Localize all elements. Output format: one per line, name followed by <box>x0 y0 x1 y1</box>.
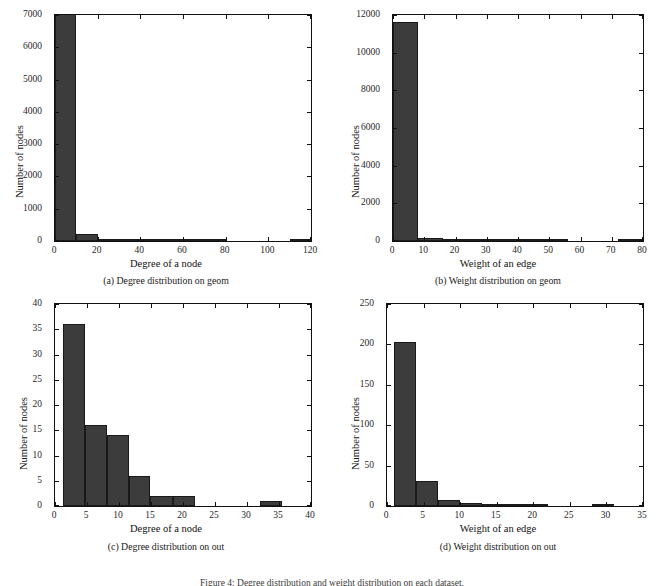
x-tick-mark-top <box>570 304 571 308</box>
x-tick-mark-top <box>606 304 607 308</box>
x-tick-mark <box>497 502 498 506</box>
y-tick-mark <box>55 240 59 241</box>
x-tick-label: 40 <box>135 245 145 255</box>
x-tick-label: 10 <box>419 245 429 255</box>
y-tick-label: 10 <box>33 450 43 460</box>
panel-b-weight-distribution-geom: 01020304050607080 0200040006000800010000… <box>332 0 664 293</box>
y-tick-mark <box>55 505 59 506</box>
y-tick-label: 10000 <box>356 47 380 57</box>
histogram-bar <box>482 504 504 506</box>
y-tick-mark <box>55 80 59 81</box>
y-axis-title-c: Number of nodes <box>18 397 29 470</box>
y-tick-mark-right <box>639 466 643 467</box>
x-tick-mark-top <box>119 304 120 308</box>
x-tick-label: 20 <box>92 245 102 255</box>
x-tick-mark <box>183 502 184 506</box>
x-axis-title-d: Weight of an edge <box>332 523 664 534</box>
x-tick-mark-top <box>247 304 248 308</box>
x-tick-label: 0 <box>390 245 395 255</box>
x-tick-mark-top <box>581 15 582 19</box>
histogram-bars-b <box>393 15 643 241</box>
histogram-bar <box>416 481 438 506</box>
x-tick-label: 0 <box>52 510 57 520</box>
x-tick-mark <box>226 237 227 241</box>
y-tick-label: 25 <box>33 374 43 384</box>
histogram-bars-c <box>55 304 311 506</box>
x-tick-label: 15 <box>145 510 155 520</box>
subcaption-d: (d) Weight distribution on out <box>332 541 664 552</box>
x-tick-mark-top <box>98 15 99 19</box>
panel-a-degree-distribution-geom: 020406080100120 010002000300040005000600… <box>0 0 332 293</box>
y-tick-mark <box>393 53 397 54</box>
y-tick-label: 0 <box>37 235 42 245</box>
y-tick-mark-right <box>307 144 311 145</box>
x-tick-mark <box>456 237 457 241</box>
y-tick-label: 15 <box>33 424 43 434</box>
y-tick-mark-right <box>307 304 311 305</box>
histogram-bar <box>438 500 460 506</box>
y-tick-label: 250 <box>360 298 374 308</box>
y-tick-label: 6000 <box>23 41 42 51</box>
y-tick-label: 7000 <box>23 9 42 19</box>
histogram-bar <box>460 503 482 506</box>
histogram-bars-d <box>387 304 643 506</box>
y-tick-label: 1000 <box>23 203 42 213</box>
y-tick-mark-right <box>307 405 311 406</box>
y-tick-mark-right <box>307 505 311 506</box>
y-tick-mark-right <box>307 176 311 177</box>
y-tick-mark-right <box>307 329 311 330</box>
x-tick-mark-top <box>140 15 141 19</box>
x-tick-label: 25 <box>564 510 574 520</box>
y-tick-mark-right <box>307 355 311 356</box>
x-tick-label: 10 <box>113 510 123 520</box>
histogram-bar <box>394 342 416 506</box>
x-axis-title-a: Degree of a node <box>0 258 332 269</box>
x-tick-label: 20 <box>450 245 460 255</box>
histogram-bar <box>592 504 614 506</box>
y-tick-label: 12000 <box>356 9 380 19</box>
histogram-bar <box>504 504 526 506</box>
y-tick-label: 150 <box>360 379 374 389</box>
y-tick-label: 35 <box>33 323 43 333</box>
x-tick-mark-top <box>183 15 184 19</box>
y-tick-labels-a: 01000200030004000500060007000 <box>0 14 50 242</box>
y-tick-mark-right <box>639 15 643 16</box>
x-tick-mark <box>247 502 248 506</box>
y-tick-mark <box>387 304 391 305</box>
y-tick-label: 4000 <box>361 160 380 170</box>
y-tick-label: 8000 <box>361 84 380 94</box>
y-tick-mark <box>393 128 397 129</box>
x-tick-mark <box>581 237 582 241</box>
y-tick-mark <box>55 355 59 356</box>
histogram-bars-a <box>55 15 311 241</box>
x-tick-label: 70 <box>606 245 616 255</box>
y-axis-title-d: Number of nodes <box>350 397 361 470</box>
figure-caption: Figure 4: Degree distribution and weight… <box>0 578 664 586</box>
x-tick-mark <box>549 237 550 241</box>
x-tick-mark <box>518 237 519 241</box>
x-tick-label: 60 <box>575 245 585 255</box>
y-tick-mark-right <box>639 505 643 506</box>
y-tick-mark-right <box>307 380 311 381</box>
x-tick-mark-top <box>87 304 88 308</box>
y-tick-mark-right <box>307 47 311 48</box>
x-tick-mark <box>533 502 534 506</box>
subcaption-b: (b) Weight distribution on geom <box>332 275 664 286</box>
y-tick-mark-right <box>639 166 643 167</box>
y-tick-label: 5000 <box>23 74 42 84</box>
histogram-bar <box>76 234 97 241</box>
histogram-bar <box>98 239 119 241</box>
histogram-bar <box>183 239 204 241</box>
y-tick-mark <box>55 176 59 177</box>
histogram-bar <box>526 504 548 506</box>
y-tick-mark-right <box>639 385 643 386</box>
x-tick-mark <box>606 502 607 506</box>
y-tick-mark <box>393 166 397 167</box>
y-tick-mark <box>55 329 59 330</box>
y-tick-label: 2000 <box>23 170 42 180</box>
histogram-bar <box>85 425 107 506</box>
y-tick-label: 4000 <box>23 106 42 116</box>
y-tick-label: 30 <box>33 349 43 359</box>
histogram-bar <box>140 239 161 241</box>
x-tick-mark-top <box>226 15 227 19</box>
